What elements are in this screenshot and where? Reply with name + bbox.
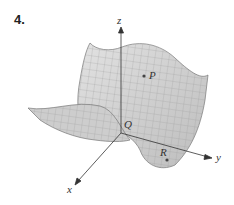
surface [28, 43, 208, 168]
point-q-label: Q [124, 118, 132, 130]
point-r-label: R [160, 146, 167, 158]
point-p-label: P [149, 69, 156, 81]
y-arrow-icon [204, 155, 212, 160]
y-axis-label: y [216, 151, 221, 163]
z-arrow-icon [119, 27, 124, 33]
z-axis-label: z [117, 14, 121, 26]
surface-figure [0, 0, 234, 205]
point-r-dot [165, 158, 168, 161]
point-p-dot [142, 74, 145, 77]
x-axis-label: x [67, 183, 72, 195]
